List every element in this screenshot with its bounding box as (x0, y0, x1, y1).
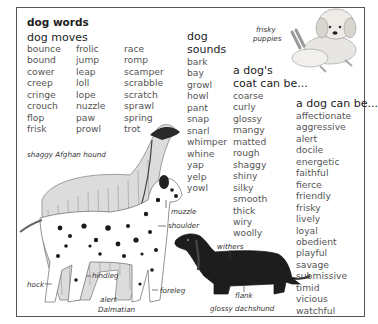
word: whine (187, 148, 227, 159)
word: yap (187, 159, 227, 170)
word: howl (187, 90, 227, 101)
word: affectionate (296, 110, 351, 121)
label-muzzle: muzzle (171, 207, 197, 216)
word: snap (187, 113, 227, 124)
word: romp (124, 54, 164, 65)
word: cower (27, 66, 61, 77)
word: silky (233, 182, 267, 193)
word: coarse (233, 90, 267, 101)
word: spring (124, 112, 164, 123)
word: growl (187, 79, 227, 90)
dog-moves-column-3: race romp scamper scrabble scratch spraw… (124, 43, 164, 135)
word: obedient (296, 236, 351, 247)
coat-heading-line2: coat can be... (233, 77, 308, 90)
word: vicious (296, 293, 351, 304)
word: friendly (296, 190, 351, 201)
label-hindleg: hindleg (92, 271, 119, 280)
word: yowl (187, 182, 227, 193)
word: rough (233, 147, 267, 158)
word: scratch (124, 89, 164, 100)
puppies-illustration (292, 9, 356, 72)
dog-moves-column-2: frolic jump leap loll lope nuzzle paw pr… (76, 43, 106, 135)
coat-list: coarse curly glossy mangy matted rough s… (233, 90, 267, 239)
word: aggressive (296, 121, 351, 132)
word: matted (233, 136, 267, 147)
word: shiny (233, 170, 267, 181)
label-withers: withers (217, 242, 243, 251)
word: leap (76, 66, 106, 77)
word: frisk (27, 123, 61, 134)
word: creep (27, 77, 61, 88)
word: curly (233, 101, 267, 112)
word: smooth (233, 193, 267, 204)
word: whimper (187, 136, 227, 147)
word: lively (296, 213, 351, 224)
word: paw (76, 112, 106, 123)
word: frolic (76, 43, 106, 54)
traits-heading: a dog can be... (296, 97, 378, 110)
word: thick (233, 205, 267, 216)
word: frisky (296, 202, 351, 213)
afghan-caption: shaggy Afghan hound (27, 150, 106, 159)
word: submissive (296, 270, 351, 281)
dalmatian-caption-line2: Dalmatian (98, 305, 135, 314)
label-hock: hock (27, 280, 44, 289)
puppies-caption-line1: frisky (256, 25, 276, 34)
word: sprawl (124, 100, 164, 111)
word: bark (187, 56, 227, 67)
word: savage (296, 259, 351, 270)
dog-sounds-list: bark bay growl howl pant snap snarl whim… (187, 56, 227, 193)
word: scrabble (124, 77, 164, 88)
word: fierce (296, 179, 351, 190)
word: wiry (233, 216, 267, 227)
word: woolly (233, 227, 267, 238)
word: pant (187, 102, 227, 113)
word: race (124, 43, 164, 54)
word: yelp (187, 171, 227, 182)
word: loyal (296, 225, 351, 236)
word: bound (27, 54, 61, 65)
label-foreleg: foreleg (160, 286, 185, 295)
word: faithful (296, 167, 351, 178)
dog-sounds-heading-line1: dog (187, 30, 208, 43)
word: scamper (124, 66, 164, 77)
word: glossy (233, 113, 267, 124)
word: nuzzle (76, 100, 106, 111)
label-flank: flank (235, 291, 253, 300)
word: bay (187, 67, 227, 78)
word: bounce (27, 43, 61, 54)
dog-moves-column-1: bounce bound cower creep cringe crouch f… (27, 43, 61, 135)
word: shaggy (233, 159, 267, 170)
word: timid (296, 282, 351, 293)
word: playful (296, 247, 351, 258)
word: jump (76, 54, 106, 65)
word: snarl (187, 125, 227, 136)
dog-sounds-heading-line2: sounds (187, 43, 226, 56)
word: mangy (233, 124, 267, 135)
word: lope (76, 89, 106, 100)
word: watchful (296, 305, 351, 316)
puppies-caption-line2: puppies (253, 34, 281, 43)
dalmatian-caption-line1: alert (100, 295, 117, 304)
word: cringe (27, 89, 61, 100)
label-shoulder: shoulder (168, 221, 199, 230)
word: docile (296, 144, 351, 155)
traits-list: affectionate aggressive alert docile ene… (296, 110, 351, 316)
word: loll (76, 77, 106, 88)
word: alert (296, 133, 351, 144)
dachshund-caption: glossy dachshund (210, 304, 274, 313)
word: energetic (296, 156, 351, 167)
word: trot (124, 123, 164, 134)
coat-heading-line1: a dog's (233, 64, 273, 77)
word: flop (27, 112, 61, 123)
word: prowl (76, 123, 106, 134)
page-title: dog words (27, 16, 89, 28)
word: crouch (27, 100, 61, 111)
